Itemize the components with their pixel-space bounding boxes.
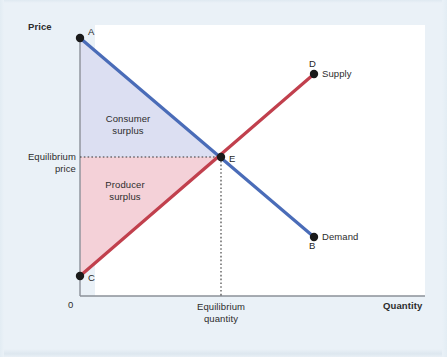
- equilibrium-price-label-line1: Equilibrium: [0, 151, 76, 163]
- point-C-label: C: [88, 272, 95, 284]
- x-axis-title: Quantity: [383, 300, 422, 312]
- point-D-marker[interactable]: [310, 70, 318, 78]
- consumer-surplus-label-line2: surplus: [88, 125, 168, 137]
- y-axis-title: Price: [28, 21, 52, 33]
- demand-curve-label: Demand: [322, 231, 359, 243]
- point-A-label: A: [88, 26, 94, 38]
- equilibrium-quantity-label-line2: quantity: [161, 313, 281, 325]
- equilibrium-quantity-label-line1: Equilibrium: [161, 301, 281, 313]
- point-A-marker[interactable]: [76, 34, 84, 42]
- equilibrium-price-label-line2: price: [0, 163, 76, 175]
- point-E-label: E: [229, 153, 235, 165]
- point-B-label: B: [309, 240, 315, 252]
- supply-curve-label: Supply: [322, 68, 352, 80]
- point-E-marker[interactable]: [217, 153, 225, 161]
- producer-surplus-label-line1: Producer: [85, 179, 165, 191]
- consumer-surplus-label-line1: Consumer: [88, 113, 168, 125]
- point-D-label: D: [309, 58, 316, 70]
- producer-surplus-label-line2: surplus: [85, 191, 165, 203]
- point-C-marker[interactable]: [76, 272, 84, 280]
- origin-label: 0: [68, 299, 73, 311]
- supply-demand-figure: Price Quantity 0 Equilibrium price Equil…: [0, 0, 447, 357]
